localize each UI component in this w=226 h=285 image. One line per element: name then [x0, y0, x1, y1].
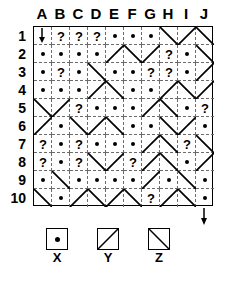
grid-cell-I3[interactable]	[178, 63, 196, 81]
grid-cell-D6[interactable]	[88, 117, 106, 135]
grid-cell-H7[interactable]	[160, 135, 178, 153]
grid-cell-B1[interactable]: ?	[52, 27, 70, 45]
grid-cell-D2[interactable]	[88, 45, 106, 63]
grid-cell-B4[interactable]	[52, 81, 70, 99]
grid-cell-H6[interactable]	[160, 117, 178, 135]
grid-cell-I4[interactable]	[178, 81, 196, 99]
grid-cell-A6[interactable]	[34, 117, 52, 135]
grid-cell-F5[interactable]	[124, 99, 142, 117]
grid-cell-D5[interactable]	[88, 99, 106, 117]
grid-cell-C2[interactable]	[70, 45, 88, 63]
grid-cell-A5[interactable]	[34, 99, 52, 117]
grid-cell-E2[interactable]	[106, 45, 124, 63]
grid-cell-E6[interactable]	[106, 117, 124, 135]
grid-cell-C3[interactable]	[70, 63, 88, 81]
grid-cell-A10[interactable]	[34, 189, 52, 207]
grid-cell-G9[interactable]	[142, 171, 160, 189]
puzzle-grid[interactable]: ????????????????	[33, 26, 213, 206]
grid-cell-C10[interactable]	[70, 189, 88, 207]
grid-cell-G5[interactable]	[142, 99, 160, 117]
grid-cell-I9[interactable]	[178, 171, 196, 189]
grid-cell-D8[interactable]	[88, 153, 106, 171]
grid-cell-D7[interactable]	[88, 135, 106, 153]
grid-cell-F2[interactable]	[124, 45, 142, 63]
grid-cell-E3[interactable]	[106, 63, 124, 81]
grid-cell-J7[interactable]	[196, 135, 214, 153]
grid-cell-B10[interactable]	[52, 189, 70, 207]
grid-cell-F7[interactable]	[124, 135, 142, 153]
grid-cell-E1[interactable]	[106, 27, 124, 45]
grid-cell-F10[interactable]	[124, 189, 142, 207]
grid-cell-J5[interactable]: ?	[196, 99, 214, 117]
grid-cell-J4[interactable]	[196, 81, 214, 99]
grid-cell-G8[interactable]	[142, 153, 160, 171]
grid-cell-I2[interactable]	[178, 45, 196, 63]
grid-cell-F6[interactable]	[124, 117, 142, 135]
grid-cell-J9[interactable]	[196, 171, 214, 189]
grid-cell-B8[interactable]	[52, 153, 70, 171]
grid-cell-I6[interactable]	[178, 117, 196, 135]
grid-cell-D1[interactable]: ?	[88, 27, 106, 45]
grid-cell-B7[interactable]	[52, 135, 70, 153]
grid-cell-H3[interactable]: ?	[160, 63, 178, 81]
grid-cell-G4[interactable]	[142, 81, 160, 99]
grid-cell-I10[interactable]	[178, 189, 196, 207]
grid-cell-G6[interactable]	[142, 117, 160, 135]
grid-cell-C5[interactable]: ?	[70, 99, 88, 117]
grid-cell-A8[interactable]: ?	[34, 153, 52, 171]
grid-cell-J2[interactable]	[196, 45, 214, 63]
grid-cell-F9[interactable]	[124, 171, 142, 189]
grid-cell-E4[interactable]	[106, 81, 124, 99]
grid-cell-J6[interactable]	[196, 117, 214, 135]
grid-cell-I7[interactable]: ?	[178, 135, 196, 153]
grid-cell-B3[interactable]: ?	[52, 63, 70, 81]
grid-cell-H4[interactable]	[160, 81, 178, 99]
grid-cell-H9[interactable]	[160, 171, 178, 189]
grid-cell-I5[interactable]	[178, 99, 196, 117]
grid-cell-D9[interactable]	[88, 171, 106, 189]
grid-cell-J3[interactable]	[196, 63, 214, 81]
grid-cell-H1[interactable]	[160, 27, 178, 45]
grid-cell-G10[interactable]: ?	[142, 189, 160, 207]
grid-cell-B6[interactable]	[52, 117, 70, 135]
grid-cell-H8[interactable]	[160, 153, 178, 171]
grid-cell-C7[interactable]: ?	[70, 135, 88, 153]
grid-cell-I8[interactable]	[178, 153, 196, 171]
grid-cell-C1[interactable]: ?	[70, 27, 88, 45]
grid-cell-H10[interactable]	[160, 189, 178, 207]
grid-cell-B5[interactable]	[52, 99, 70, 117]
grid-cell-D10[interactable]	[88, 189, 106, 207]
grid-cell-D4[interactable]	[88, 81, 106, 99]
grid-cell-C6[interactable]	[70, 117, 88, 135]
grid-cell-E9[interactable]	[106, 171, 124, 189]
grid-cell-H5[interactable]	[160, 99, 178, 117]
grid-cell-B9[interactable]	[52, 171, 70, 189]
grid-cell-C9[interactable]	[70, 171, 88, 189]
grid-cell-I1[interactable]	[178, 27, 196, 45]
grid-cell-E10[interactable]	[106, 189, 124, 207]
grid-cell-B2[interactable]	[52, 45, 70, 63]
grid-cell-A9[interactable]	[34, 171, 52, 189]
grid-cell-E8[interactable]	[106, 153, 124, 171]
grid-cell-J1[interactable]	[196, 27, 214, 45]
grid-cell-D3[interactable]	[88, 63, 106, 81]
grid-cell-F4[interactable]	[124, 81, 142, 99]
grid-cell-A2[interactable]	[34, 45, 52, 63]
grid-cell-G1[interactable]	[142, 27, 160, 45]
grid-cell-F8[interactable]: ?	[124, 153, 142, 171]
grid-cell-H2[interactable]: ?	[160, 45, 178, 63]
grid-cell-E5[interactable]	[106, 99, 124, 117]
grid-cell-J8[interactable]	[196, 153, 214, 171]
grid-cell-J10[interactable]	[196, 189, 214, 207]
grid-cell-A7[interactable]: ?	[34, 135, 52, 153]
grid-cell-G2[interactable]	[142, 45, 160, 63]
grid-cell-C4[interactable]	[70, 81, 88, 99]
grid-cell-E7[interactable]	[106, 135, 124, 153]
grid-cell-G3[interactable]: ?	[142, 63, 160, 81]
grid-cell-A4[interactable]	[34, 81, 52, 99]
grid-cell-F1[interactable]	[124, 27, 142, 45]
grid-cell-A3[interactable]	[34, 63, 52, 81]
grid-cell-F3[interactable]	[124, 63, 142, 81]
grid-cell-C8[interactable]: ?	[70, 153, 88, 171]
grid-cell-G7[interactable]	[142, 135, 160, 153]
